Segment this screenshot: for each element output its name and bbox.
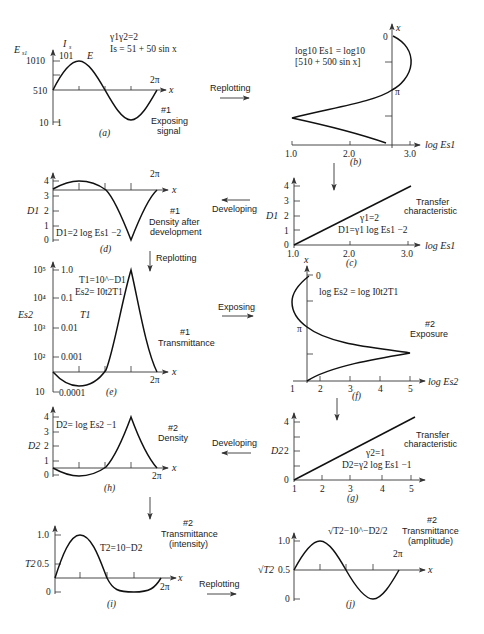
svg-text:10: 10 xyxy=(35,387,45,397)
panel-h-eq: D2= log Es2 −1 xyxy=(56,420,117,430)
photographic-process-diagram: E s1 I s 1010 510 10 101 1 E 2π x γ1γ2=2… xyxy=(0,0,484,634)
svg-text:1: 1 xyxy=(44,221,49,231)
panel-h-density-2: 4 3 2 1 0 D2 D2= log Es2 −1 2π x #2 Dens… xyxy=(27,407,189,494)
arrow-replotting-a-b: Replotting xyxy=(210,83,251,98)
svg-text:π: π xyxy=(395,87,400,97)
panel-g-label: (g) xyxy=(347,493,358,504)
svg-text:0.5: 0.5 xyxy=(278,565,290,575)
svg-text:Exposing: Exposing xyxy=(151,116,188,126)
svg-text:0: 0 xyxy=(284,475,289,485)
svg-text:Density after: Density after xyxy=(149,217,200,227)
panel-f-exposure-2: 0 π x log Es2 = log I0t2T1 #2 Exposure 1… xyxy=(290,254,458,402)
svg-text:γ1=2: γ1=2 xyxy=(359,213,379,223)
svg-text:2π: 2π xyxy=(150,75,160,85)
svg-text:3: 3 xyxy=(284,196,289,206)
svg-text:510: 510 xyxy=(33,86,48,96)
svg-text:0: 0 xyxy=(316,271,321,281)
svg-text:2: 2 xyxy=(318,384,323,394)
svg-text:Density: Density xyxy=(158,433,189,443)
svg-text:π: π xyxy=(297,324,302,334)
svg-text:T1=10^−D1: T1=10^−D1 xyxy=(79,275,126,285)
svg-text:x: x xyxy=(427,564,433,575)
svg-text:D1: D1 xyxy=(265,210,278,221)
panel-c-transfer-characteristic-1: 4 3 2 1 0 D1 1.0 2.0 3.0 log Es1 γ1=2 D1… xyxy=(265,178,458,269)
svg-text:2π: 2π xyxy=(393,549,403,559)
svg-text:x: x xyxy=(168,84,174,95)
svg-text:Developing: Developing xyxy=(212,204,257,214)
svg-text:5: 5 xyxy=(408,384,413,394)
panel-i-eq: T2=10−D2 xyxy=(100,543,143,553)
svg-text:D2: D2 xyxy=(270,445,283,456)
svg-text:Replotting: Replotting xyxy=(199,579,240,589)
svg-text:#2: #2 xyxy=(168,423,178,433)
svg-text:3: 3 xyxy=(44,191,49,201)
svg-text:#1: #1 xyxy=(180,327,190,337)
svg-text:101: 101 xyxy=(59,51,74,61)
panel-a-y-label: E xyxy=(13,44,20,55)
svg-text:#2: #2 xyxy=(425,319,435,329)
svg-text:log Es1: log Es1 xyxy=(425,139,455,150)
panel-j-eq: √T2−10^−D2/2 xyxy=(328,526,388,536)
svg-text:1.0: 1.0 xyxy=(287,249,299,259)
svg-text:0: 0 xyxy=(44,235,49,245)
panel-g-line xyxy=(294,417,415,480)
svg-text:Exposing: Exposing xyxy=(218,302,255,312)
arrow-exposing-e-f: Exposing xyxy=(218,302,255,316)
panel-c-line xyxy=(294,186,411,245)
panel-a-intensity-eq: Is = 51 + 50 sin x xyxy=(110,44,177,54)
svg-text:2: 2 xyxy=(284,211,289,221)
panel-j-label: (j) xyxy=(346,599,355,610)
svg-text:2π: 2π xyxy=(160,582,170,592)
panel-b-label: (b) xyxy=(350,157,361,168)
svg-text:0.001: 0.001 xyxy=(61,352,83,362)
svg-text:1010: 1010 xyxy=(26,56,45,66)
svg-text:x: x xyxy=(177,572,183,583)
svg-text:4: 4 xyxy=(44,412,49,422)
panel-b-eq2: [510 + 500 sin x] xyxy=(295,57,361,67)
svg-text:2: 2 xyxy=(320,484,325,494)
panel-b-eq1: log10 Es1 = log10 xyxy=(295,46,365,56)
svg-text:s: s xyxy=(69,44,72,50)
svg-text:10²: 10² xyxy=(33,352,46,362)
svg-text:x: x xyxy=(395,22,401,33)
svg-text:5: 5 xyxy=(409,484,414,494)
svg-text:1.0: 1.0 xyxy=(37,530,49,540)
svg-text:T2: T2 xyxy=(25,558,36,569)
svg-text:1.0: 1.0 xyxy=(61,265,73,275)
svg-text:2π: 2π xyxy=(150,375,160,385)
svg-text:10⁵: 10⁵ xyxy=(33,265,46,275)
svg-text:1: 1 xyxy=(290,384,295,394)
svg-text:2π: 2π xyxy=(152,471,162,481)
svg-text:0: 0 xyxy=(46,587,51,597)
svg-text:characteristic: characteristic xyxy=(404,439,458,449)
svg-text:x: x xyxy=(303,254,309,265)
svg-text:1: 1 xyxy=(292,484,297,494)
svg-text:#1: #1 xyxy=(161,105,171,115)
svg-text:3.0: 3.0 xyxy=(404,149,416,159)
svg-text:1: 1 xyxy=(57,118,62,128)
panel-d-label: (d) xyxy=(100,244,111,255)
svg-text:1.0: 1.0 xyxy=(285,149,297,159)
svg-text:0.0001: 0.0001 xyxy=(59,388,85,398)
arrow-developing-c-d: Developing xyxy=(212,200,257,214)
panel-e-label: (e) xyxy=(106,387,117,398)
svg-text:10: 10 xyxy=(39,118,49,128)
svg-text:characteristic: characteristic xyxy=(404,206,458,216)
svg-text:0.5: 0.5 xyxy=(37,559,49,569)
svg-text:0: 0 xyxy=(44,470,49,480)
svg-text:0.1: 0.1 xyxy=(61,293,73,303)
svg-text:3.0: 3.0 xyxy=(401,249,413,259)
svg-text:E: E xyxy=(86,50,93,61)
svg-text:2: 2 xyxy=(284,446,289,456)
svg-text:Replotting: Replotting xyxy=(210,83,251,93)
panel-c-label: (c) xyxy=(346,258,357,269)
svg-text:x: x xyxy=(171,184,177,195)
panel-a-sine-curve xyxy=(53,61,157,120)
svg-text:4: 4 xyxy=(44,176,49,186)
panel-a-gamma-eq: γ1γ2=2 xyxy=(109,32,138,42)
svg-text:x: x xyxy=(171,462,177,473)
svg-text:(amplitude): (amplitude) xyxy=(408,536,453,546)
svg-text:Replotting: Replotting xyxy=(156,253,197,263)
svg-text:D2=γ2 log Es1 −1: D2=γ2 log Es1 −1 xyxy=(342,460,412,470)
panel-f-eq: log Es2 = log I0t2T1 xyxy=(319,287,398,297)
